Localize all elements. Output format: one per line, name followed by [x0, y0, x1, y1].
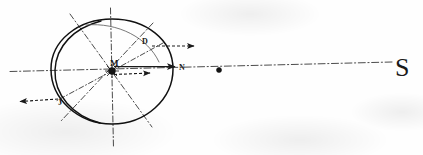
velocity-arrow-M: [114, 73, 150, 75]
diagram-canvas: [0, 0, 423, 155]
limb-inner-arc: [86, 25, 159, 62]
limb-point-label: D: [142, 38, 148, 46]
sun-label: S: [395, 55, 409, 81]
sun-line: [10, 62, 392, 72]
mid-line-node-marker: [217, 68, 222, 73]
tilted-axis-b: [61, 23, 153, 121]
terminator-point-label: J: [57, 97, 63, 107]
terminator-arrow-J: [20, 99, 58, 102]
sunward-direction-label: N: [179, 64, 185, 72]
terminator-arc: [55, 21, 101, 123]
astronomical-diagram-figure: M N D J S: [0, 0, 423, 155]
planet-center-label: M: [110, 59, 119, 68]
